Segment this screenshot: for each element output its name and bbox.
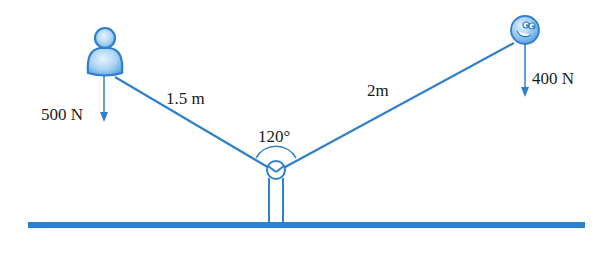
right-force-label: 400 N	[532, 69, 574, 88]
pivot-post	[269, 178, 283, 222]
left-force-label: 500 N	[41, 105, 83, 124]
right-arm	[276, 43, 514, 172]
ground-line	[28, 222, 585, 228]
right-arm-length-label: 2m	[367, 81, 389, 100]
left-arm-length-label: 1.5 m	[166, 89, 205, 108]
angle-arc	[256, 146, 296, 158]
left-force-arrow	[100, 76, 108, 122]
pivot-joint	[267, 161, 285, 179]
person-icon	[88, 28, 123, 76]
right-force-arrow	[521, 44, 529, 97]
diagram-canvas: 500 N 1.5 m 2m 400 N 120°	[0, 0, 605, 255]
pivot-angle-label: 120°	[258, 127, 290, 146]
lever-diagram: 500 N 1.5 m 2m 400 N 120°	[0, 0, 605, 255]
smiley-ball-icon	[511, 16, 539, 44]
